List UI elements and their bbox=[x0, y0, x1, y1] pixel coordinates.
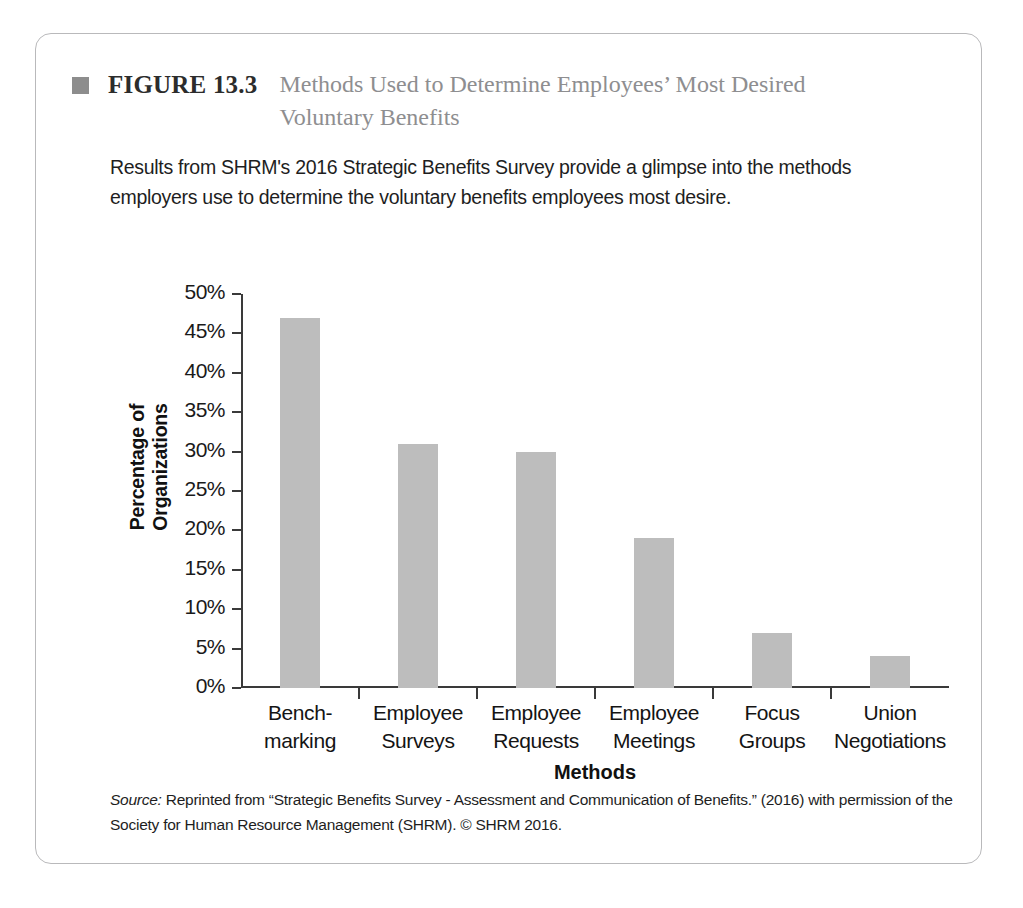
x-axis-tick bbox=[476, 688, 478, 699]
y-axis-tick-label: 50% bbox=[184, 280, 225, 304]
figure-label: FIGURE 13.3 bbox=[108, 68, 257, 101]
source-word: Source: bbox=[110, 791, 162, 808]
y-axis-tick-label: 30% bbox=[184, 438, 225, 462]
bar bbox=[752, 633, 792, 688]
y-axis-tick-label: 40% bbox=[184, 359, 225, 383]
y-axis-tick: 30% bbox=[232, 451, 241, 453]
y-axis-tick: 40% bbox=[232, 372, 241, 374]
y-axis-tick-label: 25% bbox=[184, 477, 225, 501]
y-axis-tick: 0% bbox=[232, 687, 241, 689]
bar-chart: Percentage of Organizations 50%45%40%35%… bbox=[101, 239, 961, 784]
x-axis-tick bbox=[594, 688, 596, 699]
x-axis-tick bbox=[712, 688, 714, 699]
y-axis-tick: 35% bbox=[232, 411, 241, 413]
figure-marker-square bbox=[72, 77, 89, 94]
y-axis-tick-label: 0% bbox=[196, 674, 225, 698]
figure-title: Methods Used to Determine Employees’ Mos… bbox=[279, 68, 879, 134]
figure-intro-text: Results from SHRM's 2016 Strategic Benef… bbox=[110, 152, 940, 212]
x-axis-tick bbox=[830, 688, 832, 699]
bar bbox=[398, 444, 438, 688]
figure-header: FIGURE 13.3 Methods Used to Determine Em… bbox=[72, 68, 951, 134]
x-axis-category-label: UnionNegotiations bbox=[817, 699, 963, 755]
y-axis-tick: 25% bbox=[232, 490, 241, 492]
x-axis-title: Methods bbox=[241, 761, 949, 784]
bar bbox=[870, 656, 910, 688]
y-axis-tick: 15% bbox=[232, 569, 241, 571]
bar bbox=[516, 452, 556, 688]
bar bbox=[634, 538, 674, 688]
y-axis-tick-label: 45% bbox=[184, 319, 225, 343]
y-axis-tick: 20% bbox=[232, 529, 241, 531]
figure-card: FIGURE 13.3 Methods Used to Determine Em… bbox=[35, 33, 982, 864]
figure-source-note: Source: Reprinted from “Strategic Benefi… bbox=[110, 787, 955, 837]
y-axis-line bbox=[241, 294, 243, 688]
y-axis-tick-label: 5% bbox=[196, 635, 225, 659]
y-axis-tick-label: 10% bbox=[184, 595, 225, 619]
x-axis-tick bbox=[358, 688, 360, 699]
y-axis-tick-label: 15% bbox=[184, 556, 225, 580]
source-text: Reprinted from “Strategic Benefits Surve… bbox=[110, 791, 953, 833]
bar bbox=[280, 318, 320, 688]
y-axis-tick-label: 20% bbox=[184, 516, 225, 540]
x-axis-tick-labels: Bench-markingEmployeeSurveysEmployeeRequ… bbox=[241, 699, 949, 761]
y-axis-tick-label: 35% bbox=[184, 398, 225, 422]
plot-area: 50%45%40%35%30%25%20%15%10%5%0% bbox=[241, 294, 949, 688]
y-axis-tick: 5% bbox=[232, 648, 241, 650]
y-axis-tick: 45% bbox=[232, 332, 241, 334]
y-axis-tick: 10% bbox=[232, 608, 241, 610]
y-axis-tick: 50% bbox=[232, 293, 241, 295]
y-axis-title: Percentage of Organizations bbox=[126, 342, 172, 592]
